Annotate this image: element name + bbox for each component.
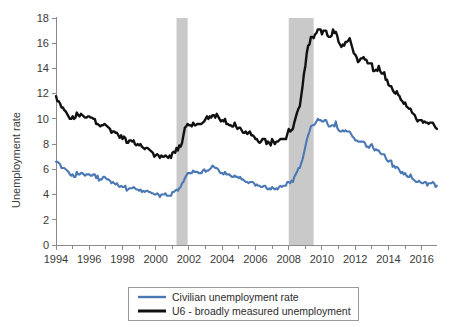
unemployment-rate-chart: 024681012141618 199419961998200020022004… xyxy=(0,0,450,327)
x-tick-label: 1996 xyxy=(77,253,101,265)
x-tick-label: 2014 xyxy=(376,253,400,265)
x-tick-label: 2000 xyxy=(143,253,167,265)
y-tick-label: 14 xyxy=(37,62,49,74)
x-axis-ticks: 1994199619982000200220042006200820102012… xyxy=(44,245,434,265)
y-axis-title: Unemployment rate xyxy=(10,112,22,208)
y-tick-label: 2 xyxy=(43,214,49,226)
x-tick-label: 2004 xyxy=(210,253,234,265)
x-tick-label: 2006 xyxy=(243,253,267,265)
x-tick-label: 2012 xyxy=(343,253,367,265)
legend-label-u6: U6 - broadly measured unemployment xyxy=(172,305,351,317)
y-tick-label: 18 xyxy=(37,12,49,24)
y-tick-label: 8 xyxy=(43,138,49,150)
x-tick-label: 2002 xyxy=(177,253,201,265)
recession-2001-band xyxy=(177,18,188,245)
y-tick-label: 16 xyxy=(37,37,49,49)
x-tick-label: 2008 xyxy=(276,253,300,265)
chart-legend: Civilian unemployment rateU6 - broadly m… xyxy=(128,287,358,320)
series-line-u6 xyxy=(56,29,437,158)
chart-canvas: 024681012141618 199419961998200020022004… xyxy=(0,0,450,327)
legend-label-civilian: Civilian unemployment rate xyxy=(172,291,299,303)
x-tick-label: 1994 xyxy=(44,253,68,265)
x-tick-label: 2010 xyxy=(310,253,334,265)
y-tick-label: 10 xyxy=(37,113,49,125)
y-tick-label: 6 xyxy=(43,163,49,175)
y-tick-label: 12 xyxy=(37,87,49,99)
x-tick-label: 2016 xyxy=(409,253,433,265)
y-axis-ticks: 024681012141618 xyxy=(37,12,56,251)
y-tick-label: 4 xyxy=(43,188,49,200)
y-tick-label: 0 xyxy=(43,239,49,251)
x-tick-label: 1998 xyxy=(110,253,134,265)
series-group xyxy=(56,29,437,197)
